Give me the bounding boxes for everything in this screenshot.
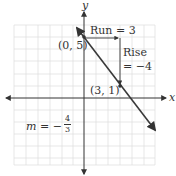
slope-fraction: 4 3: [64, 115, 71, 134]
rise-label: Rise: [123, 47, 147, 58]
point-label-0-5: (0, 5): [58, 40, 88, 51]
slope-label: m = −: [26, 121, 62, 132]
x-axis-label: x: [169, 92, 175, 103]
point-label-3-1: (3, 1): [90, 85, 120, 96]
run-label: Run = 3: [90, 25, 136, 36]
slope-numerator: 4: [65, 115, 70, 123]
y-axis-label: y: [82, 0, 88, 11]
rise-value: = −4: [123, 61, 152, 72]
coordinate-plane: [0, 0, 176, 176]
slope-denominator: 3: [65, 126, 70, 134]
graphed-line: [77, 28, 155, 130]
